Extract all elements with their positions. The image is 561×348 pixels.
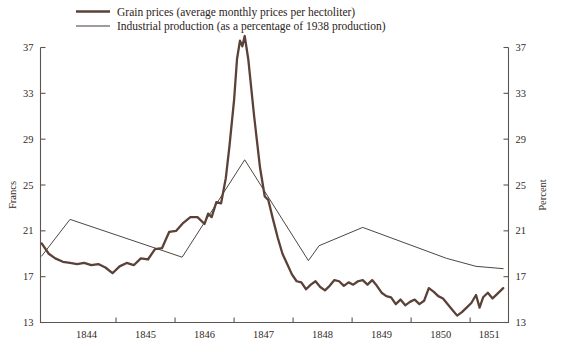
- left-axis-title: Francs: [7, 181, 18, 209]
- plot-frame: [41, 48, 509, 323]
- right-axis-ticks: 13172125293337: [504, 42, 527, 328]
- x-tick-label: 1850: [430, 329, 451, 340]
- legend-label-industrial-production: Industrial production (as a percentage o…: [117, 20, 386, 33]
- right-axis-title: Percent: [537, 179, 548, 211]
- right-tick-label: 17: [516, 271, 527, 282]
- left-tick-label: 13: [23, 317, 34, 328]
- x-tick-label: 1848: [312, 329, 333, 340]
- x-tick-label: 1846: [194, 329, 215, 340]
- left-tick-label: 21: [23, 225, 34, 236]
- x-tick-label: 1847: [253, 329, 274, 340]
- right-tick-label: 37: [516, 42, 527, 53]
- right-tick-label: 25: [516, 180, 527, 191]
- right-tick-label: 29: [516, 134, 527, 145]
- x-axis-ticks: 18441845184618471848184918501851: [76, 318, 500, 340]
- left-axis-ticks: 13172125293337: [23, 42, 46, 328]
- x-tick-label: 1844: [76, 329, 98, 340]
- chart-container: Grain prices (average monthly prices per…: [0, 0, 561, 348]
- left-tick-label: 17: [23, 271, 34, 282]
- right-tick-label: 21: [516, 225, 527, 236]
- axis-spines: [41, 48, 509, 323]
- legend-label-grain-prices: Grain prices (average monthly prices per…: [117, 6, 355, 19]
- right-tick-label: 13: [516, 317, 527, 328]
- x-tick-label: 1849: [371, 329, 392, 340]
- series-line-grain-prices: [42, 36, 504, 316]
- right-tick-label: 33: [516, 88, 527, 99]
- x-tick-label: 1851: [479, 329, 500, 340]
- x-tick-label: 1845: [135, 329, 156, 340]
- chart-svg: Grain prices (average monthly prices per…: [0, 0, 561, 348]
- left-tick-label: 37: [23, 42, 34, 53]
- left-tick-label: 33: [23, 88, 34, 99]
- left-tick-label: 29: [23, 134, 34, 145]
- legend: Grain prices (average monthly prices per…: [76, 6, 386, 34]
- left-tick-label: 25: [23, 180, 34, 191]
